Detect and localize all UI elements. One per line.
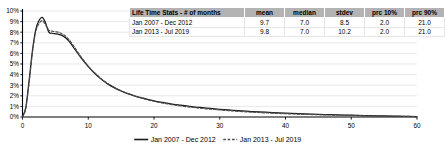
y-axis-tick-label: 2%	[10, 92, 20, 99]
x-axis-tick-label: 30	[216, 122, 224, 129]
x-axis-tick-label: 50	[348, 122, 356, 129]
stats-table-header-row: Life Time Stats - # of months mean media…	[130, 8, 445, 18]
y-axis-tick-label: 8%	[10, 29, 20, 36]
x-axis-tick-label: 10	[85, 122, 93, 129]
y-axis-tick-label: 1%	[10, 103, 20, 110]
stats-cell-stdev: 8.5	[325, 18, 365, 27]
y-axis-tick-label: 9%	[10, 18, 20, 25]
y-axis-tick-label: 4%	[10, 71, 20, 78]
stats-header-median: median	[285, 8, 325, 18]
y-axis-tick-label: 3%	[10, 82, 20, 89]
stats-header-label: Life Time Stats - # of months	[130, 8, 245, 18]
x-axis-tick-label: 60	[413, 122, 421, 129]
stats-cell-prc90: 21.0	[405, 18, 445, 27]
y-axis-tick-label: 10%	[6, 7, 19, 14]
x-axis-tick-label: 40	[282, 122, 290, 129]
table-row: Jan 2013 - Jul 2019 9.8 7.0 10.2 2.0 21.…	[130, 27, 445, 36]
y-axis-tick-label: 6%	[10, 50, 20, 57]
legend-label-1: Jan 2007 - Dec 2012	[151, 136, 216, 143]
stats-header-prc90: prc 90%	[405, 8, 445, 18]
stats-cell-mean: 9.7	[245, 18, 285, 27]
y-axis-tick-label: 0%	[10, 113, 20, 120]
stats-cell-prc10: 2.0	[365, 18, 405, 27]
stats-cell-median: 7.0	[285, 27, 325, 36]
legend-label-2: Jan 2013 - Jul 2019	[240, 136, 302, 143]
table-row: Jan 2007 - Dec 2012 9.7 7.0 8.5 2.0 21.0	[130, 18, 445, 27]
y-axis-tick-labels: 0%1%2%3%4%5%6%7%8%9%10%	[6, 7, 19, 120]
chart-legend: Jan 2007 - Dec 2012Jan 2013 - Jul 2019	[134, 136, 301, 143]
x-axis-tick-label: 0	[21, 122, 25, 129]
x-axis-tick-label: 20	[150, 122, 158, 129]
stats-cell-prc10: 2.0	[365, 27, 405, 36]
stats-row-label: Jan 2007 - Dec 2012	[130, 18, 245, 27]
stats-cell-median: 7.0	[285, 18, 325, 27]
stats-header-mean: mean	[245, 8, 285, 18]
stats-cell-mean: 9.8	[245, 27, 285, 36]
y-axis-tick-label: 5%	[10, 60, 20, 67]
stats-cell-prc90: 21.0	[405, 27, 445, 36]
stats-row-label: Jan 2013 - Jul 2019	[130, 27, 245, 36]
stats-cell-stdev: 10.2	[325, 27, 365, 36]
y-axis-tick-label: 7%	[10, 39, 20, 46]
stats-header-prc10: prc 10%	[365, 8, 405, 18]
stats-header-stdev: stdev	[325, 8, 365, 18]
life-time-stats-table: Life Time Stats - # of months mean media…	[129, 7, 445, 37]
x-axis-tick-labels: 0102030405060	[21, 122, 421, 129]
